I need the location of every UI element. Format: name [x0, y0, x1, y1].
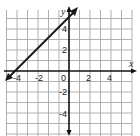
y-tick-label: 4: [62, 24, 67, 34]
x-tick-label: -4: [13, 73, 21, 83]
y-tick-label: 2: [62, 45, 67, 55]
x-axis-arrow-right-icon: [131, 69, 137, 74]
x-tick-label: 4: [107, 73, 112, 83]
x-tick-label: 2: [86, 73, 91, 83]
y-axis-arrow-down-icon: [67, 130, 72, 136]
axes: [4, 6, 137, 136]
y-axis-label: y: [60, 6, 66, 17]
y-tick-label: -4: [59, 109, 67, 119]
x-tick-label: -2: [35, 73, 43, 83]
coordinate-plane: y x -4 -2 0 2 4 4 2 -2 -4: [0, 0, 140, 136]
y-tick-label: -2: [59, 87, 67, 97]
x-axis-label: x: [128, 58, 134, 69]
origin-label: 0: [61, 73, 66, 83]
